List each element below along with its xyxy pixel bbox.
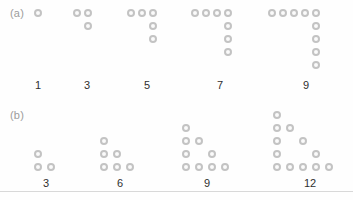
dot	[301, 9, 309, 17]
dot	[312, 150, 320, 158]
dot	[100, 137, 108, 145]
dot	[279, 9, 287, 17]
dot	[34, 163, 42, 171]
panel-a-label: (a)	[10, 8, 24, 19]
dot	[113, 150, 121, 158]
dot	[195, 137, 203, 145]
dot	[182, 150, 190, 158]
group-count-label: 6	[117, 178, 123, 189]
dot	[224, 35, 232, 43]
group-count-label: 12	[304, 178, 316, 189]
dot	[312, 61, 320, 69]
dot	[34, 150, 42, 158]
dot	[138, 9, 146, 17]
dot	[149, 35, 157, 43]
dot	[149, 22, 157, 30]
dot	[273, 137, 281, 145]
dot	[268, 9, 276, 17]
dot	[213, 9, 221, 17]
dot	[312, 9, 320, 17]
dot	[299, 137, 307, 145]
group-count-label: 1	[35, 80, 41, 91]
panel-a: (a) 13579	[0, 0, 353, 100]
dot	[299, 163, 307, 171]
panel-b: (b) 36912	[0, 100, 353, 200]
dot	[100, 163, 108, 171]
dot	[73, 9, 81, 17]
dot	[182, 124, 190, 132]
dot	[273, 163, 281, 171]
dot	[100, 150, 108, 158]
dot	[312, 22, 320, 30]
group-count-label: 3	[43, 178, 49, 189]
dot	[224, 9, 232, 17]
dot	[126, 163, 134, 171]
group-count-label: 3	[84, 80, 90, 91]
group-count-label: 9	[303, 80, 309, 91]
dot	[84, 9, 92, 17]
dot	[286, 124, 294, 132]
dot	[290, 9, 298, 17]
group-count-label: 5	[144, 80, 150, 91]
dot	[208, 150, 216, 158]
dot	[273, 111, 281, 119]
dot	[312, 163, 320, 171]
dot	[202, 9, 210, 17]
dot	[182, 137, 190, 145]
dot	[34, 9, 42, 17]
dot	[47, 163, 55, 171]
dot	[208, 163, 216, 171]
dot	[224, 22, 232, 30]
dot	[84, 22, 92, 30]
group-count-label: 9	[204, 178, 210, 189]
group-count-label: 7	[217, 80, 223, 91]
dot	[312, 48, 320, 56]
dot	[149, 9, 157, 17]
dot	[286, 163, 294, 171]
dot	[182, 163, 190, 171]
panel-b-label: (b)	[10, 110, 24, 121]
dot	[325, 163, 333, 171]
dot	[273, 150, 281, 158]
dot	[312, 35, 320, 43]
dot	[224, 48, 232, 56]
dot	[127, 9, 135, 17]
dot-pattern-figure: (a) 13579 (b) 36912	[0, 0, 353, 200]
dot	[113, 163, 121, 171]
dot	[195, 163, 203, 171]
dot	[273, 124, 281, 132]
dot	[221, 163, 229, 171]
bottom-divider	[0, 191, 353, 192]
dot	[191, 9, 199, 17]
